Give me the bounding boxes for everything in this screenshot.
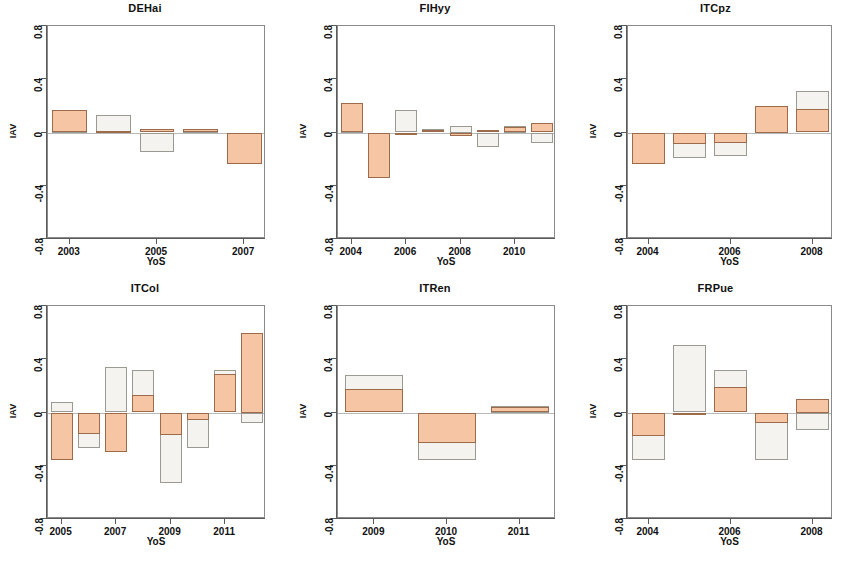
x-axis-tick xyxy=(156,238,157,244)
x-axis: 200920102011 xyxy=(337,518,555,526)
y-axis: 0.80.40-0.4-0.8 xyxy=(330,305,337,518)
y-axis: 0.80.40-0.4-0.8 xyxy=(620,305,627,518)
bar-orange xyxy=(52,110,87,133)
panel-title: ITRen xyxy=(290,282,580,294)
plot-area xyxy=(47,305,265,518)
x-axis-tick xyxy=(243,238,244,244)
x-axis: 2004200620082010 xyxy=(337,238,555,246)
x-axis-title: YoS xyxy=(627,536,832,547)
y-axis-title: IAV xyxy=(298,124,308,138)
bar-orange xyxy=(132,395,154,412)
bar-orange xyxy=(105,413,127,453)
bar-orange xyxy=(796,109,829,133)
x-axis-tick xyxy=(405,238,406,244)
y-axis-tick-label: 0.4 xyxy=(614,78,625,92)
x-axis-tick xyxy=(69,238,70,244)
x-axis-tick xyxy=(170,518,171,524)
bar-orange xyxy=(345,389,403,413)
x-axis-title: YoS xyxy=(337,256,555,267)
y-axis-tick-label: 0.4 xyxy=(34,78,45,92)
plot-area xyxy=(627,305,832,518)
bar-orange xyxy=(214,374,236,413)
y-axis-tick-label: 0.4 xyxy=(324,78,335,92)
y-axis-tick-label: 0.8 xyxy=(324,25,335,39)
plot-area xyxy=(337,305,555,518)
plot-area xyxy=(47,25,265,238)
plot-clip xyxy=(338,26,554,237)
plot-clip xyxy=(48,306,264,517)
x-axis: 200320052007 xyxy=(47,238,265,246)
x-axis: 200420062008 xyxy=(627,238,832,246)
y-axis: 0.80.40-0.4-0.8 xyxy=(330,25,337,238)
bar-white xyxy=(673,345,706,413)
plot-area xyxy=(337,25,555,238)
bar-orange xyxy=(755,413,788,424)
plot-clip xyxy=(48,26,264,237)
x-axis-tick xyxy=(730,238,731,244)
x-axis-tick xyxy=(351,238,352,244)
x-axis-tick xyxy=(61,518,62,524)
panel-frpue: FRPueIAV0.80.40-0.4-0.8200420062008YoS xyxy=(580,280,851,561)
bar-orange xyxy=(227,133,262,165)
figure-panel-grid: DEHaiIAV0.80.40-0.4-0.8200320052007YoSFI… xyxy=(0,0,851,561)
x-axis-title: YoS xyxy=(47,536,265,547)
x-axis-title: YoS xyxy=(627,256,832,267)
bar-orange xyxy=(368,133,390,178)
x-axis-tick xyxy=(460,238,461,244)
bar-orange xyxy=(796,399,829,412)
bar-orange xyxy=(632,413,665,437)
bar-white xyxy=(477,133,499,148)
x-axis-tick xyxy=(519,518,520,524)
y-axis-tick-label: 0.8 xyxy=(34,305,45,319)
panel-title: ITCol xyxy=(0,282,290,294)
y-axis-title: IAV xyxy=(8,404,18,418)
x-axis-tick xyxy=(224,518,225,524)
bar-white xyxy=(531,133,553,144)
bar-orange xyxy=(450,133,472,137)
x-axis: 200420062008 xyxy=(627,518,832,526)
y-axis-tick-label: -0.4 xyxy=(324,465,335,482)
bar-white xyxy=(96,115,131,132)
y-axis-tick-label: -0.4 xyxy=(34,185,45,202)
y-axis-tick-label: -0.8 xyxy=(614,518,625,535)
x-axis-tick xyxy=(812,518,813,524)
panel-itcpz: ITCpzIAV0.80.40-0.4-0.8200420062008YoS xyxy=(580,0,851,280)
panel-title: DEHai xyxy=(0,2,290,14)
y-axis-tick-label: 0.8 xyxy=(324,305,335,319)
panel-title: ITCpz xyxy=(580,2,851,14)
bar-orange xyxy=(341,103,363,132)
bar-orange xyxy=(673,133,706,145)
plot-clip xyxy=(628,306,831,517)
panel-itcol: ITColIAV0.80.40-0.4-0.82005200720092011Y… xyxy=(0,280,290,561)
y-axis-tick-label: 0.4 xyxy=(324,358,335,372)
panel-fihyy: FIHyyIAV0.80.40-0.4-0.82004200620082010Y… xyxy=(290,0,580,280)
y-axis-tick-label: -0.8 xyxy=(324,518,335,535)
plot-area xyxy=(627,25,832,238)
bar-orange xyxy=(422,130,444,133)
bar-white xyxy=(796,413,829,430)
y-axis-tick-label: 0.4 xyxy=(34,358,45,372)
y-axis-tick-label: -0.4 xyxy=(614,465,625,482)
y-axis-tick-label: 0.8 xyxy=(614,25,625,39)
x-axis: 2005200720092011 xyxy=(47,518,265,526)
bar-orange xyxy=(160,413,182,436)
bar-orange xyxy=(418,413,476,444)
bar-orange xyxy=(504,127,526,132)
bar-orange xyxy=(632,133,665,165)
panel-itren: ITRenIAV0.80.40-0.4-0.8200920102011YoS xyxy=(290,280,580,561)
x-axis-tick xyxy=(812,238,813,244)
bar-white xyxy=(395,110,417,133)
y-axis-tick-label: -0.8 xyxy=(34,238,45,255)
y-axis-tick-label: 0 xyxy=(614,412,625,418)
y-axis-tick-label: -0.8 xyxy=(34,518,45,535)
y-axis-tick-label: -0.8 xyxy=(324,238,335,255)
panel-dehai: DEHaiIAV0.80.40-0.4-0.8200320052007YoS xyxy=(0,0,290,280)
bar-white xyxy=(51,402,73,413)
bar-orange xyxy=(477,130,499,133)
bar-orange xyxy=(140,129,175,133)
bar-white xyxy=(105,367,127,412)
x-axis-spine xyxy=(337,238,555,239)
x-axis-tick xyxy=(730,518,731,524)
x-axis-tick xyxy=(648,238,649,244)
x-axis-tick xyxy=(446,518,447,524)
